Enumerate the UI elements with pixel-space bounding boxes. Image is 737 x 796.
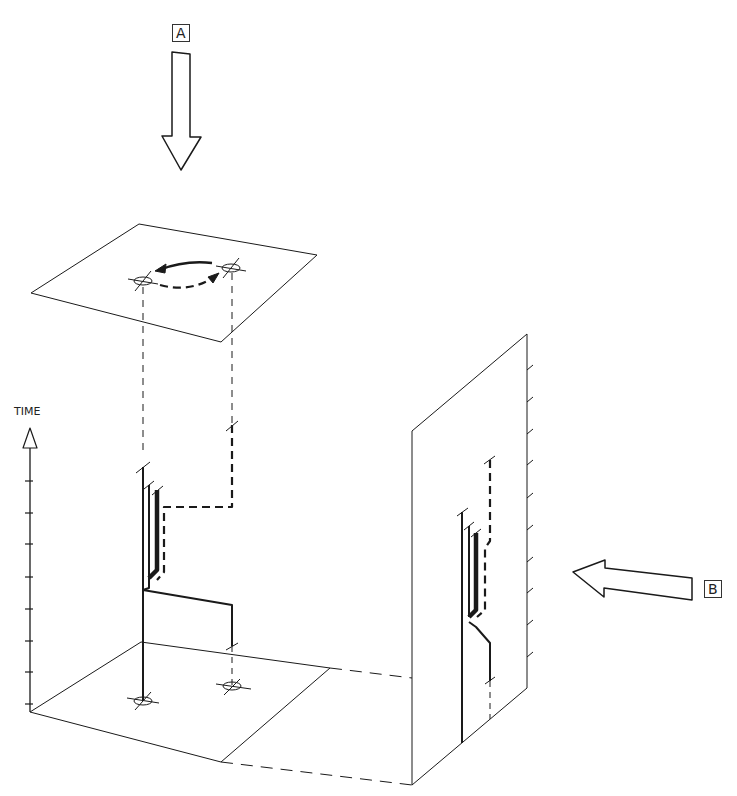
base-plane: [30, 642, 330, 762]
space-time-diagram: [0, 0, 737, 796]
side-wall-ticks: [527, 365, 533, 657]
base-location-2: [216, 679, 251, 695]
return-movement-arrow: [159, 262, 212, 270]
space-time-paths: [136, 421, 238, 701]
outgoing-movement-arrow: [160, 277, 214, 288]
side-wall-paths: [457, 456, 495, 743]
top-location-2: [216, 258, 246, 278]
view-b-arrow-icon: [573, 560, 692, 600]
time-axis-arrow-icon: [23, 428, 37, 448]
time-axis-ticks: [25, 481, 33, 704]
top-projection-plane: [31, 224, 317, 342]
view-a-arrow-icon: [162, 52, 201, 170]
